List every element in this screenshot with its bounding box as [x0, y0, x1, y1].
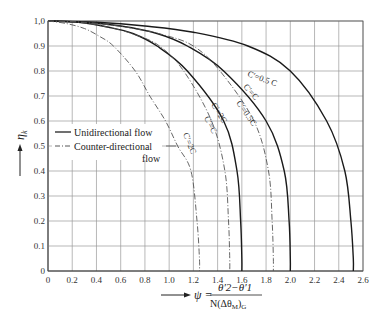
x-tick-label: 1.2: [188, 275, 199, 285]
x-axis-label: ψ = θ′2−θ′1 N(ΔθM)G: [161, 281, 262, 311]
x-tick-label: 2.0: [285, 275, 297, 285]
x-tick-label: 2.6: [357, 275, 369, 285]
y-tick-label: 0.9: [34, 41, 46, 51]
y-tick-label: 0.2: [34, 216, 45, 226]
up-arrow-icon: [18, 144, 23, 151]
x-axis-numerator: θ′2−θ′1: [218, 281, 252, 293]
y-tick-label: 0.3: [34, 191, 46, 201]
x-tick-label: 1.8: [260, 275, 272, 285]
y-tick-label: 0.7: [34, 91, 46, 101]
x-tick-label: 2.2: [309, 275, 320, 285]
y-tick-label: 0.1: [34, 241, 45, 251]
x-tick-label: 2.4: [333, 275, 345, 285]
x-tick-label: 0.2: [67, 275, 78, 285]
right-arrow-icon: [184, 293, 191, 298]
svg-text:ηk: ηk: [13, 130, 29, 140]
x-axis-denominator: N(Δθ: [210, 298, 232, 310]
x-axis-sub-g: G: [241, 303, 246, 311]
legend: Unidirectional flow Counter-directional …: [52, 124, 176, 164]
y-axis-label: ηk: [13, 130, 29, 176]
x-tick-label: 0.6: [115, 275, 127, 285]
y-tick-label: 0.5: [34, 141, 46, 151]
efficiency-chart: 00.20.40.60.81.01.21.41.61.82.02.22.42.6…: [0, 0, 385, 321]
x-tick-label: 0.4: [91, 275, 103, 285]
x-tick-label: 0: [46, 275, 51, 285]
legend-counter-directional: Counter-directional: [74, 141, 152, 152]
y-tick-label: 0.4: [34, 166, 46, 176]
y-tick-label: 1,0: [34, 16, 46, 26]
label-cnt-05c: C′=0.5C: [234, 98, 259, 127]
y-tick-label: 0.8: [34, 66, 46, 76]
legend-unidirectional: Unidirectional flow: [74, 127, 153, 138]
y-tick-label: 0.6: [34, 116, 46, 126]
label-cnt-2c: C′=2C: [181, 131, 199, 156]
y-tick-label: 0: [41, 266, 46, 276]
svg-text:N(ΔθM)G: N(ΔθM)G: [210, 298, 246, 311]
x-tick-label: 1.0: [164, 275, 176, 285]
x-tick-label: 0.8: [139, 275, 151, 285]
legend-counter-flow: flow: [142, 153, 161, 164]
y-axis-sub: k: [20, 130, 29, 134]
